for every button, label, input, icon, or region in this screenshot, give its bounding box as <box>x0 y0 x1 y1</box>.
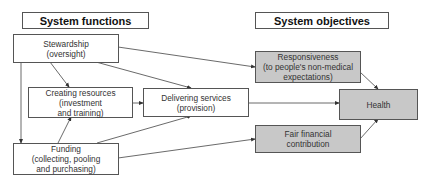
funding-label: Funding <box>51 144 81 154</box>
delivering-services-sublabel: (provision) <box>177 103 216 113</box>
creating-resources-box: Creating resources (investment and train… <box>28 87 133 118</box>
responsiveness-sublabel-1: (to people's non-medical <box>263 62 353 72</box>
system-objectives-header: System objectives <box>255 12 389 29</box>
health-box: Health <box>339 89 418 120</box>
responsiveness-sublabel-2: expectations) <box>283 72 332 82</box>
responsiveness-box: Responsiveness (to people's non-medical … <box>255 51 361 83</box>
delivering-services-label: Delivering services <box>161 93 231 103</box>
creating-resources-label: Creating resources <box>45 88 115 98</box>
fair-financial-label: Fair financial <box>284 129 331 139</box>
delivering-services-box: Delivering services (provision) <box>143 88 249 117</box>
responsiveness-label: Responsiveness <box>278 52 339 62</box>
creating-resources-sublabel-1: (investment <box>59 98 102 108</box>
creating-resources-sublabel-2: and training) <box>57 108 103 118</box>
fair-financial-contribution-box: Fair financial contribution <box>255 125 361 153</box>
funding-sublabel-1: (collecting, pooling <box>32 154 101 164</box>
fair-financial-sublabel: contribution <box>287 139 330 149</box>
stewardship-label: Stewardship <box>43 39 89 49</box>
health-label: Health <box>367 100 391 110</box>
funding-sublabel-2: and purchasing) <box>36 164 96 174</box>
funding-box: Funding (collecting, pooling and purchas… <box>13 143 119 175</box>
stewardship-box: Stewardship (oversight) <box>13 34 119 63</box>
stewardship-sublabel: (oversight) <box>46 49 85 59</box>
system-functions-header: System functions <box>22 12 149 29</box>
